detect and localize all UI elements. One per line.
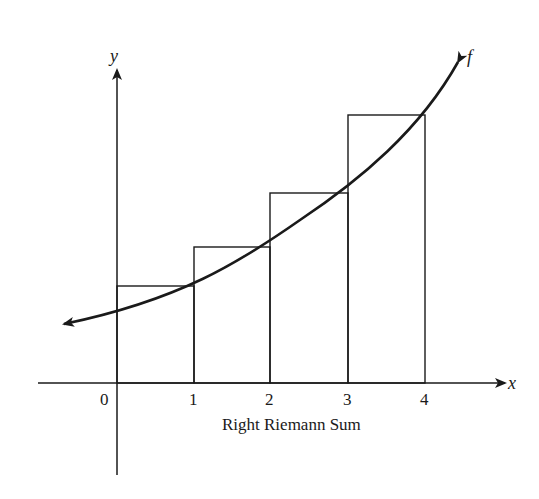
tick-label-0: 0 (100, 390, 109, 409)
tick-label-2: 2 (265, 390, 274, 409)
rectangle-3 (270, 193, 348, 383)
diagram-caption: Right Riemann Sum (222, 415, 361, 434)
x-axis-label: x (507, 373, 516, 393)
riemann-sum-diagram: y x f 0 1 2 3 4 Right Riemann Sum (0, 0, 539, 499)
function-curve (64, 62, 458, 324)
tick-label-3: 3 (343, 390, 352, 409)
y-axis-label: y (108, 46, 118, 66)
tick-label-1: 1 (189, 390, 198, 409)
rectangle-4 (348, 115, 425, 383)
riemann-rectangles (117, 115, 425, 383)
function-label: f (467, 47, 475, 67)
rectangle-1 (117, 286, 194, 383)
tick-label-4: 4 (420, 390, 429, 409)
rectangle-2 (194, 247, 270, 383)
